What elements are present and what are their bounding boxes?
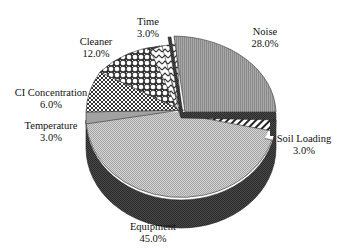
label-time-name: Time: [128, 16, 168, 28]
label-temperature: Temperature 3.0%: [18, 120, 84, 144]
label-soil-pct: 3.0%: [274, 145, 334, 157]
label-time-pct: 3.0%: [128, 28, 168, 40]
label-equipment: Equipment 45.0%: [125, 221, 181, 245]
label-noise-name: Noise: [240, 26, 290, 38]
slice-noise-bottom-band: [183, 112, 276, 117]
label-temperature-pct: 3.0%: [18, 132, 84, 144]
label-soil-name: Soil Loading: [274, 133, 334, 145]
label-ci-pct: 6.0%: [14, 99, 88, 111]
label-cleaner: Cleaner 12.0%: [76, 36, 116, 60]
label-temperature-name: Temperature: [18, 120, 84, 132]
label-ci-name: CI Concentration: [14, 87, 88, 99]
label-noise: Noise 28.0%: [240, 26, 290, 50]
label-cleaner-pct: 12.0%: [76, 48, 116, 60]
label-equipment-name: Equipment: [125, 221, 181, 233]
label-cleaner-name: Cleaner: [76, 36, 116, 48]
label-ci-concentration: CI Concentration 6.0%: [14, 87, 88, 111]
label-noise-pct: 28.0%: [240, 38, 290, 50]
label-equipment-pct: 45.0%: [125, 233, 181, 245]
label-time: Time 3.0%: [128, 16, 168, 40]
label-soil-loading: Soil Loading 3.0%: [274, 133, 334, 157]
